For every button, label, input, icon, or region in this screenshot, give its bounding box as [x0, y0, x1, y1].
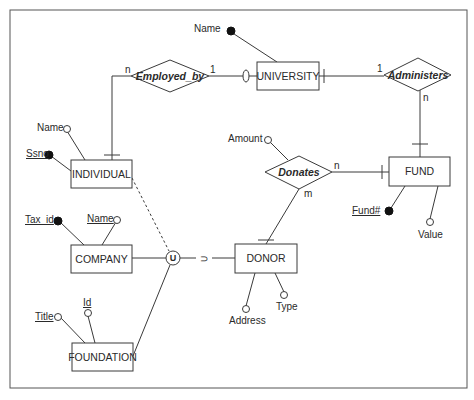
attribute-donor-address: Address	[229, 315, 266, 326]
attribute-donates-amount: Amount	[228, 133, 263, 144]
attribute-fund-value: Value	[418, 229, 443, 240]
cardinality-donates-donor: m	[304, 188, 312, 199]
relationship-administers-label: Administers	[387, 69, 449, 81]
key-attribute-marker-fund-number	[385, 207, 393, 215]
union-symbol: U	[170, 253, 177, 263]
zero-circle-university	[243, 70, 249, 82]
entity-donor[interactable]: DONOR	[235, 244, 297, 273]
key-attribute-marker-university-name	[227, 27, 235, 35]
cardinality-administers-fund: n	[423, 92, 429, 103]
relationship-administers[interactable]: Administers	[384, 58, 451, 91]
line-donates-donor	[266, 189, 299, 244]
line-foundation-id	[88, 316, 95, 343]
line-fund-number	[391, 186, 405, 208]
relationship-donates[interactable]: Donates	[265, 156, 332, 189]
dashed-line-individual-union	[132, 178, 169, 251]
line-donor-address	[246, 273, 255, 306]
relationship-employed-by[interactable]: Employed_by	[131, 60, 209, 92]
entity-fund-label: FUND	[405, 165, 435, 177]
entity-company[interactable]: COMPANY	[71, 245, 132, 273]
attribute-marker-individual-name	[64, 126, 71, 133]
attribute-marker-foundation-id	[85, 310, 92, 317]
entity-foundation-label: FOUNDATION	[68, 351, 137, 363]
attribute-company-taxid: Tax_id	[25, 214, 54, 225]
entity-university[interactable]: UNIVERSITY	[256, 62, 319, 90]
entity-fund[interactable]: FUND	[389, 157, 450, 186]
entity-university-label: UNIVERSITY	[256, 70, 319, 82]
attribute-marker-fund-value	[427, 219, 434, 226]
attribute-individual-name: Name	[37, 122, 64, 133]
line-foundation-union	[133, 265, 170, 356]
relationship-donates-label: Donates	[278, 166, 320, 178]
entity-foundation[interactable]: FOUNDATION	[68, 343, 137, 371]
line-company-taxid	[60, 222, 84, 245]
attribute-marker-donor-type	[281, 292, 288, 299]
entity-donor-label: DONOR	[246, 252, 286, 264]
line-donor-type	[275, 273, 284, 292]
attribute-foundation-id: Id	[83, 297, 91, 308]
attribute-marker-company-name	[114, 217, 121, 224]
cardinality-administers-university: 1	[377, 63, 383, 74]
line-individual-name	[67, 131, 85, 160]
line-company-name	[102, 222, 116, 245]
attribute-foundation-title: Title	[35, 311, 54, 322]
line-donates-amount	[270, 142, 288, 160]
entity-company-label: COMPANY	[75, 253, 127, 265]
attribute-fund-number: Fund#	[352, 205, 381, 216]
attribute-marker-donor-address	[243, 306, 250, 313]
line-university-name	[231, 32, 277, 62]
attribute-university-name: Name	[194, 23, 221, 34]
cardinality-employed-by-individual: n	[125, 64, 131, 75]
key-attribute-marker-company-taxid	[54, 217, 62, 225]
attribute-donor-type: Type	[276, 301, 298, 312]
attribute-marker-donates-amount	[265, 137, 272, 144]
attribute-marker-foundation-title	[55, 314, 62, 321]
entity-individual-label: INDIVIDUAL	[72, 168, 131, 180]
subset-symbol: ⊃	[200, 253, 208, 264]
union-operator: U	[166, 251, 180, 265]
er-diagram: UNIVERSITY INDIVIDUAL FUND DONOR COMPANY…	[0, 0, 474, 400]
line-fund-value	[430, 186, 438, 219]
line-foundation-title	[61, 318, 85, 343]
line-individual-employed-by	[112, 76, 131, 160]
attribute-company-name: Name	[87, 213, 114, 224]
cardinality-donates-fund: n	[334, 160, 340, 171]
attribute-individual-ssno: Ssno	[26, 148, 49, 159]
relationship-employed-by-label: Employed_by	[136, 70, 205, 82]
entity-individual[interactable]: INDIVIDUAL	[71, 160, 132, 188]
cardinality-employed-by-university: 1	[210, 64, 216, 75]
line-individual-ssno	[51, 156, 71, 171]
diagram-frame	[10, 10, 467, 388]
